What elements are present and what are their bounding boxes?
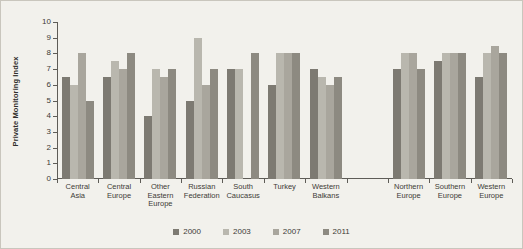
y-tick-label: 7	[47, 65, 51, 73]
x-tick-label: CentralEurope	[98, 183, 139, 200]
bar	[450, 53, 458, 179]
legend-swatch-icon	[173, 229, 179, 235]
x-tick-label-line: Turkey	[264, 183, 305, 192]
x-tick-label-line: Federation	[181, 192, 222, 201]
bar-group-bars	[57, 22, 98, 179]
bar-group-bars	[347, 22, 388, 179]
bar	[227, 69, 235, 179]
legend-item[interactable]: 2000	[173, 228, 201, 236]
x-tick-label: SouthernEurope	[429, 183, 470, 200]
chart-legend: 2000200320072011	[1, 228, 522, 236]
bar	[210, 69, 218, 179]
x-tick-label-line: Europe	[98, 192, 139, 201]
bar-group	[181, 22, 222, 179]
y-tick-label: 4	[47, 112, 51, 120]
legend-item[interactable]: 2007	[273, 228, 301, 236]
y-tick-label: 9	[47, 34, 51, 42]
bar	[310, 69, 318, 179]
bar	[334, 77, 342, 179]
bar	[78, 53, 86, 179]
bar	[160, 77, 168, 179]
y-tick-label: 0	[47, 175, 51, 183]
bar	[499, 53, 507, 179]
bar	[168, 69, 176, 179]
bar	[194, 38, 202, 179]
bar	[491, 46, 499, 179]
legend-item[interactable]: 2011	[323, 228, 350, 236]
y-tick-label: 8	[47, 49, 51, 57]
bar	[417, 69, 425, 179]
x-tick-label-line: Europe	[429, 192, 470, 201]
bar	[268, 85, 276, 179]
legend-label: 2011	[333, 228, 350, 236]
legend-item[interactable]: 2003	[223, 228, 251, 236]
bar	[70, 85, 78, 179]
legend-swatch-icon	[323, 229, 329, 235]
x-tick-label-line: Europe	[140, 200, 181, 209]
y-tick-label: 2	[47, 144, 51, 152]
bar	[103, 77, 111, 179]
bar	[475, 77, 483, 179]
bar	[483, 53, 491, 179]
bar-group	[57, 22, 98, 179]
bar-group-bars	[140, 22, 181, 179]
bar-group-bars	[471, 22, 512, 179]
x-tick-label: NorthernEurope	[388, 183, 429, 200]
y-tick-label: 6	[47, 81, 51, 89]
chart-figure: Private Monitoring Index 012345678910 Ce…	[0, 0, 523, 249]
bar	[409, 53, 417, 179]
bar	[186, 101, 194, 180]
bar	[434, 61, 442, 179]
bar-group-bars	[305, 22, 346, 179]
x-tick-label-line: Balkans	[305, 192, 346, 201]
bar-group-bars	[264, 22, 305, 179]
bar	[284, 53, 292, 179]
bar-group-bars	[429, 22, 470, 179]
x-tick-mark	[347, 179, 348, 183]
x-tick-label: Turkey	[264, 183, 305, 192]
bar-group	[305, 22, 346, 179]
x-tick-label-line: Europe	[471, 192, 512, 201]
x-tick-label: CentralAsia	[57, 183, 98, 200]
legend-swatch-icon	[273, 229, 279, 235]
x-tick-label-line: Asia	[57, 192, 98, 201]
bar	[202, 85, 210, 179]
bar-group-bars	[388, 22, 429, 179]
bar	[292, 53, 300, 179]
legend-swatch-icon	[223, 229, 229, 235]
bar	[86, 101, 94, 180]
bar-group	[471, 22, 512, 179]
bar	[152, 69, 160, 179]
bar	[458, 53, 466, 179]
bar	[127, 53, 135, 179]
bar	[401, 53, 409, 179]
x-tick-label: WesternEurope	[471, 183, 512, 200]
x-tick-label-line: Europe	[388, 192, 429, 201]
x-tick-label: OtherEasternEurope	[140, 183, 181, 209]
y-tick-label: 10	[42, 18, 51, 26]
y-axis-title: Private Monitoring Index	[9, 21, 23, 181]
legend-label: 2000	[183, 228, 201, 236]
bar	[144, 116, 152, 179]
bar	[119, 69, 127, 179]
bar-group	[429, 22, 470, 179]
plot-area: 012345678910 CentralAsiaCentralEuropeOth…	[57, 22, 512, 179]
x-tick-mark	[512, 179, 513, 183]
bar-group	[98, 22, 139, 179]
bar-group-bars	[181, 22, 222, 179]
bar-group-bars	[98, 22, 139, 179]
bar	[318, 77, 326, 179]
bar-group	[264, 22, 305, 179]
bar	[251, 53, 259, 179]
y-axis-title-text: Private Monitoring Index	[12, 56, 21, 146]
bar	[326, 85, 334, 179]
y-tick-label: 1	[47, 159, 51, 167]
x-tick-label: WesternBalkans	[305, 183, 346, 200]
bar	[111, 61, 119, 179]
bar	[62, 77, 70, 179]
legend-label: 2003	[233, 228, 251, 236]
bar-group	[347, 22, 388, 179]
bar	[276, 53, 284, 179]
legend-label: 2007	[283, 228, 301, 236]
bar-group-bars	[222, 22, 263, 179]
